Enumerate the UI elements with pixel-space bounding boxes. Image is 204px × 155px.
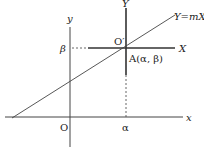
point-a-label: A(α, β) (128, 53, 163, 64)
alpha-label: α (122, 122, 129, 133)
Y-axis-label: Y (122, 0, 130, 9)
line-y-equals-mx (12, 15, 175, 118)
y-axis-label: y (66, 13, 73, 24)
x-axis-label: x (186, 112, 192, 123)
X-axis-label: X (178, 43, 187, 54)
coordinate-diagram: x y O X Y O′ A(α, β) β α Y=mX (0, 0, 204, 155)
beta-label: β (59, 43, 66, 54)
new-origin-label: O′ (114, 36, 125, 47)
line-equation-label: Y=mX (174, 11, 204, 22)
origin-label: O (60, 122, 68, 133)
